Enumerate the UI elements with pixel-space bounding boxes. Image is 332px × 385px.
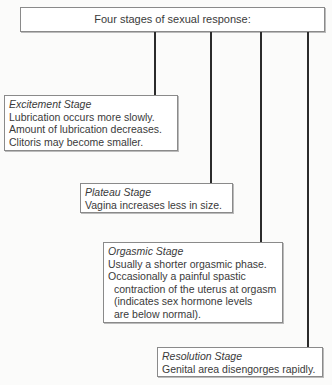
stage-line: Usually a shorter orgasmic phase. [108,258,278,271]
stage-line: Amount of lubrication decreases. [9,123,173,136]
stage-name: Orgasmic Stage [108,245,278,258]
stage-box-excitement: Excitement Stage Lubrication occurs more… [4,95,178,151]
connector-excitement [154,32,156,96]
connector-plateau [210,32,212,184]
stage-line: are below normal). [108,308,278,321]
connector-orgasmic [260,32,262,275]
connector-resolution [307,32,309,348]
stage-line: Lubrication occurs more slowly. [9,111,173,124]
stage-line: contraction of the uterus at orgasm [108,283,278,296]
stage-line: (indicates sex hormone levels [108,295,278,308]
stage-name: Plateau Stage [85,186,228,199]
stage-box-orgasmic: Orgasmic Stage Usually a shorter orgasmi… [103,242,283,323]
stage-line: Clitoris may become smaller. [9,136,173,149]
stage-name: Resolution Stage [162,350,318,363]
stage-line: Vagina increases less in size. [85,199,228,212]
stage-line: Genital area disengorges rapidly. [162,363,318,376]
stage-box-plateau: Plateau Stage Vagina increases less in s… [80,183,233,213]
stage-box-resolution: Resolution Stage Genital area disengorge… [157,347,323,377]
diagram-title: Four stages of sexual response: [20,7,325,32]
stage-line: Occasionally a painful spastic [108,270,278,283]
stage-name: Excitement Stage [9,98,173,111]
